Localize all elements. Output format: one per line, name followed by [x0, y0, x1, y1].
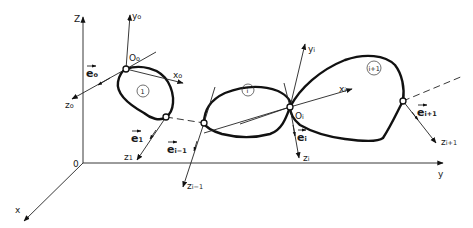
yi-axis — [290, 44, 305, 107]
body-i-label: i — [247, 87, 249, 95]
link-dashed-1 — [166, 117, 204, 123]
body-1-label: 1 — [141, 88, 145, 96]
svg-text:ei: ei — [297, 131, 307, 144]
global-origin-label: 0 — [73, 159, 79, 169]
body-i-plus-1-label: i+1 — [369, 65, 380, 73]
e0-vector — [98, 78, 110, 85]
global-axes: Z y x 0 — [15, 14, 444, 221]
multibody-chain-diagram: Z y x 0 1 yo xo zo Oo eo z1 e1 — [0, 0, 473, 228]
svg-text:zi+1: zi+1 — [441, 137, 457, 147]
frame-i-plus-1: zi+1 ei+1 — [400, 76, 463, 147]
zim1-axis — [183, 123, 204, 187]
svg-text:ei−1: ei−1 — [167, 143, 187, 156]
ei-vector — [293, 125, 295, 136]
svg-text:zi: zi — [303, 153, 310, 163]
joint-i-minus-1 — [201, 120, 207, 126]
svg-text:eo: eo — [86, 67, 98, 80]
global-x-axis — [24, 163, 83, 221]
body-i-plus-1: i+1 — [290, 56, 404, 141]
svg-text:Oo: Oo — [129, 53, 140, 63]
svg-text:Oi: Oi — [295, 111, 304, 121]
svg-text:zi−1: zi−1 — [187, 181, 203, 191]
svg-text:zo: zo — [65, 100, 74, 110]
svg-text:e1: e1 — [131, 132, 143, 145]
frame-1: z1 e1 — [124, 114, 169, 162]
joint-i-plus-1 — [400, 98, 406, 104]
body-1: 1 — [118, 67, 173, 119]
tangent-line-im1 — [204, 87, 215, 123]
svg-text:z1: z1 — [124, 152, 133, 162]
body-i-chord-2 — [240, 107, 290, 124]
svg-text:yo: yo — [132, 11, 141, 21]
link-dashed-2 — [403, 76, 463, 101]
global-y-label: y — [438, 169, 444, 179]
global-z-label: Z — [74, 14, 80, 24]
global-x-label: x — [15, 205, 21, 215]
svg-text:ei+1: ei+1 — [417, 106, 437, 119]
joint-o0 — [123, 66, 129, 72]
svg-text:xi: xi — [339, 84, 346, 94]
svg-text:yi: yi — [308, 44, 315, 54]
joint-1 — [163, 114, 169, 120]
svg-text:xo: xo — [173, 70, 182, 80]
joint-oi — [287, 104, 293, 110]
e1-vector — [150, 130, 156, 139]
